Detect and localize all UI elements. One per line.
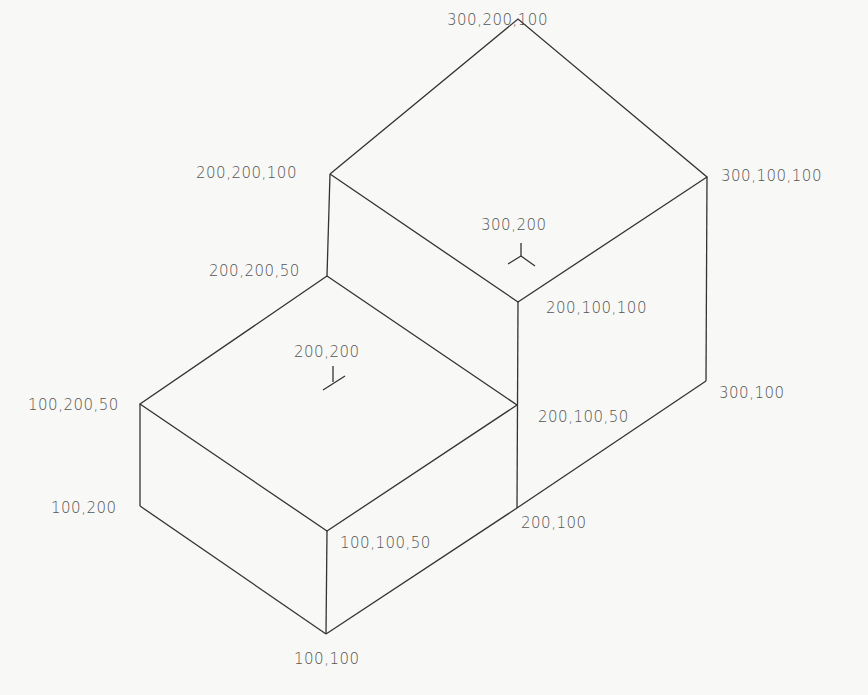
marker-label-300-200: 300,200 — [481, 216, 547, 234]
vertex-label-200-200-50: 200,200,50 — [209, 262, 300, 280]
vertex-label-100-200: 100,200 — [51, 499, 117, 517]
edge-lower-bottom-right — [326, 508, 517, 634]
vertex-label-300-200-100: 300,200,100 — [447, 11, 548, 29]
edge-upper-left — [327, 174, 330, 276]
vertex-label-300-100-100: 300,100,100 — [721, 167, 822, 185]
edge-lower-bottom-left — [140, 506, 326, 634]
lower-top-face — [140, 276, 517, 531]
edge-lower-front — [326, 531, 327, 634]
edge-upper-right — [706, 177, 707, 381]
vertex-label-300-100: 300,100 — [719, 384, 785, 402]
vertex-label-200-100-100: 200,100,100 — [546, 299, 647, 317]
vertex-label-100-200-50: 100,200,50 — [28, 396, 119, 414]
marker-label-200-200: 200,200 — [294, 343, 360, 361]
upper-top-face — [330, 19, 707, 302]
marker-200-200 — [323, 366, 345, 390]
edge-upper-bottom-right — [517, 381, 706, 508]
vertex-label-100-100: 100,100 — [294, 650, 360, 668]
diagram-canvas: 300,200,100 200,200,100 300,100,100 200,… — [0, 0, 868, 695]
isometric-drawing — [0, 0, 868, 695]
vertex-label-200-100-50: 200,100,50 — [538, 408, 629, 426]
vertex-label-200-200-100: 200,200,100 — [196, 164, 297, 182]
vertex-label-100-100-50: 100,100,50 — [340, 534, 431, 552]
marker-300-200 — [508, 243, 535, 266]
vertex-label-200-100: 200,100 — [521, 514, 587, 532]
